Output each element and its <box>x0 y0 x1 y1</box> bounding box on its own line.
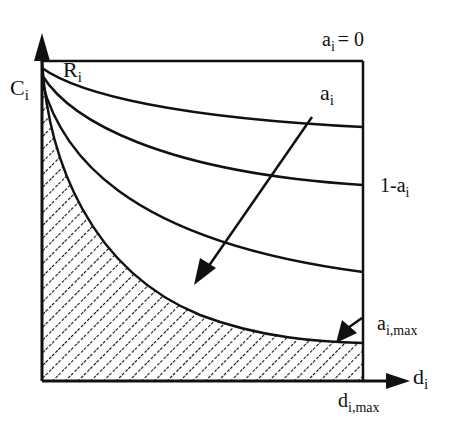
increase-arrow-shaft <box>206 117 312 270</box>
curve-2 <box>42 75 363 185</box>
x-axis-arrow-icon <box>386 373 410 389</box>
amax-label: ai,max <box>377 312 417 338</box>
arrow-label-a: ai <box>320 80 334 108</box>
diagram-canvas: Ri Ci ai= 0 ai 1-ai ai,max di di,max <box>0 0 453 429</box>
y-axis-arrow-icon <box>34 33 50 61</box>
right-label-1-a: 1-ai <box>380 174 410 200</box>
x-axis-label-d: di <box>413 364 428 392</box>
x-max-label: di,max <box>338 389 380 415</box>
top-curve-label: ai= 0 <box>322 28 364 54</box>
y-axis-label-C: Ci <box>10 75 29 103</box>
